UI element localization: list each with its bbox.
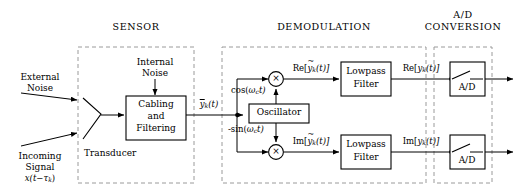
incoming-signal-math-prefix: x(t [25, 173, 37, 183]
cabling-filtering-label-line2: and [148, 111, 165, 121]
cabling-filtering-label-line3: Filtering [136, 123, 176, 133]
transducer-label: Transducer [84, 148, 136, 158]
section-header-demodulation: DEMODULATION [277, 22, 371, 33]
im-output-signal-label: Im[yk(t)] [403, 137, 440, 147]
sin-label-suffix: t) [257, 124, 264, 134]
re-tilde-signal-label: Re[~yk(t)] [293, 64, 330, 74]
sin-label-prefix: -sin( [228, 124, 247, 134]
im-tilde-group: ~y [307, 137, 312, 147]
re-tilde-prefix: Re[ [293, 63, 308, 73]
re-out-prefix: Re[ [403, 63, 418, 73]
lower-lowpass-label-line2: Filter [353, 152, 378, 162]
im-tilde-suffix: (t)] [316, 136, 329, 146]
tilde-accent: ~ [307, 58, 312, 66]
transducer-shape [83, 98, 101, 139]
incoming-signal-math: x(t−τk) [25, 174, 55, 184]
im-out-prefix: Im[ [403, 136, 418, 146]
sin-label-omega: ω [247, 124, 254, 134]
diagram-canvas: SENSOR DEMODULATION A/D CONVERSION Exter… [0, 0, 520, 190]
cabling-filtering-label-line1: Cabling [138, 99, 173, 109]
cos-label-prefix: cos( [231, 85, 249, 95]
re-output-signal-label: Re[yk(t)] [403, 64, 440, 74]
internal-noise-label-line2: Noise [142, 68, 168, 78]
sensor-output-signal-label: yk(t) [200, 100, 219, 110]
lower-multiplier-glyph: × [272, 146, 280, 156]
incoming-signal-label-line1: Incoming [19, 151, 62, 161]
lower-ad-label: A/D [459, 155, 476, 165]
re-tilde-suffix: (t)] [316, 63, 329, 73]
cos-carrier-label: cos(ωct) [231, 86, 266, 96]
im-tilde-signal-label: Im[~yk(t)] [293, 137, 330, 147]
sensor-output-suffix: (t) [208, 99, 218, 109]
re-out-suffix: (t)] [426, 63, 439, 73]
overbar-rule [200, 99, 204, 100]
re-tilde-group: ~y [307, 64, 312, 74]
internal-noise-label-line1: Internal [137, 57, 174, 67]
lower-lowpass-label-line1: Lowpass [346, 139, 385, 149]
incoming-signal-math-minus: − [36, 173, 43, 183]
external-noise-label-line2: Noise [27, 83, 53, 93]
sensor-output-base: y [200, 99, 205, 109]
external-noise-label-line1: External [21, 72, 60, 82]
upper-ad-label: A/D [459, 82, 476, 92]
im-tilde-prefix: Im[ [293, 136, 308, 146]
incoming-signal-arrow [21, 133, 77, 146]
upper-multiplier-glyph: × [272, 73, 280, 83]
incoming-signal-label-line2: Signal [26, 162, 55, 172]
sensor-output-overbar-group: y [200, 100, 205, 110]
section-header-ad-conversion-line1: A/D [453, 10, 472, 21]
oscillator-label: Oscillator [257, 107, 301, 117]
section-header-ad-conversion-line2: CONVERSION [425, 22, 502, 33]
cos-label-suffix: t) [259, 85, 266, 95]
upper-lowpass-label-line1: Lowpass [346, 66, 385, 76]
external-noise-arrow [21, 93, 77, 100]
section-header-sensor: SENSOR [113, 22, 160, 33]
cos-label-omega: ω [249, 85, 256, 95]
im-out-suffix: (t)] [426, 136, 439, 146]
negative-sin-carrier-label: -sin(ωct) [228, 125, 264, 135]
tilde-accent: ~ [307, 131, 312, 139]
incoming-signal-math-suffix: ) [52, 173, 55, 183]
upper-lowpass-label-line2: Filter [353, 79, 378, 89]
